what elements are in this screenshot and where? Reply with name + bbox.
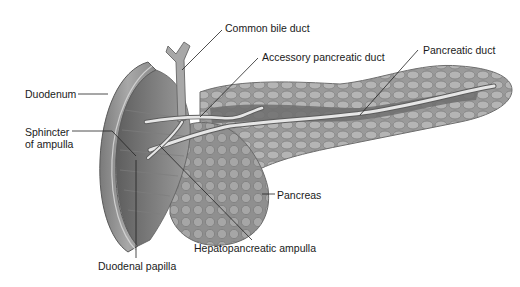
anatomy-diagram: Common bile duct Accessory pancreatic du… bbox=[0, 0, 520, 287]
label-pancreatic-duct: Pancreatic duct bbox=[423, 44, 495, 56]
label-sphincter-line1: Sphincter bbox=[25, 126, 69, 138]
label-sphincter-line2: of ampulla bbox=[25, 138, 73, 150]
label-duodenal-papilla: Duodenal papilla bbox=[98, 260, 176, 272]
label-accessory-pancreatic-duct: Accessory pancreatic duct bbox=[262, 51, 385, 63]
label-hepatopancreatic-ampulla: Hepatopancreatic ampulla bbox=[194, 242, 316, 254]
label-common-bile-duct: Common bile duct bbox=[225, 22, 310, 34]
label-pancreas: Pancreas bbox=[277, 189, 321, 201]
label-duodenum: Duodenum bbox=[25, 88, 76, 100]
